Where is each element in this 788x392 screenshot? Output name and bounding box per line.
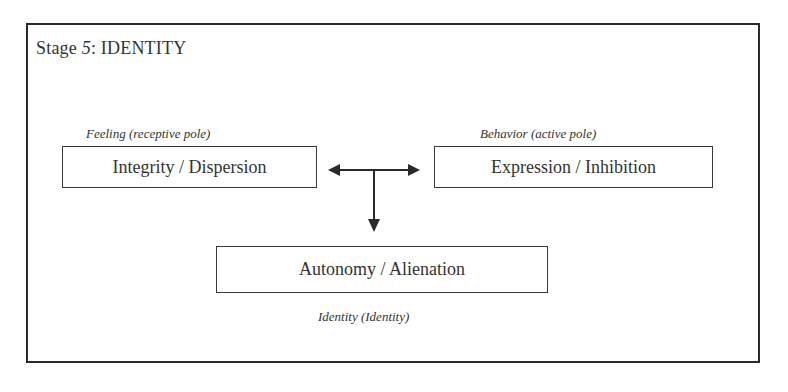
connector-arrows [0,0,788,392]
arrow-head-right-icon [408,164,420,176]
arrow-head-down-icon [368,219,380,232]
arrow-head-left-icon [328,164,340,176]
